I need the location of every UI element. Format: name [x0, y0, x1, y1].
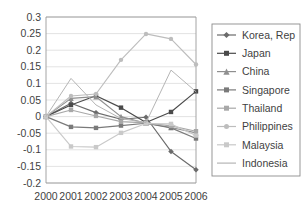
data-point-marker — [69, 94, 73, 98]
x-axis-tick-labels: 2000200120022003200420052006 — [34, 190, 208, 202]
y-tick-label: 0.15 — [21, 60, 42, 72]
data-point-marker — [69, 108, 73, 112]
data-series-group — [43, 32, 198, 173]
data-point-marker — [224, 87, 229, 92]
y-tick-label: -0.1 — [23, 143, 41, 155]
legend-label: China — [242, 65, 270, 77]
data-point-marker — [119, 105, 123, 109]
data-point-marker — [94, 145, 98, 149]
data-point-marker — [169, 122, 173, 126]
x-tick-label: 2000 — [34, 190, 58, 202]
chart-legend: Korea, RepJapanChinaSingaporeThailandPhi… — [212, 24, 300, 176]
legend-label: Indonesia — [242, 157, 288, 169]
legend-label: Thailand — [242, 102, 282, 114]
data-point-marker — [69, 125, 73, 129]
data-point-marker — [69, 144, 73, 148]
data-point-marker — [94, 92, 98, 96]
y-tick-label: 0.1 — [26, 77, 41, 89]
data-point-marker — [119, 123, 123, 127]
y-tick-label: 0.05 — [21, 94, 42, 106]
y-tick-label: 0.3 — [26, 11, 41, 23]
x-tick-label: 2001 — [59, 190, 83, 202]
x-tick-label: 2004 — [134, 190, 158, 202]
x-tick-label: 2003 — [109, 190, 133, 202]
data-point-marker — [94, 126, 98, 130]
legend-label: Philippines — [242, 120, 293, 132]
data-point-marker — [119, 58, 123, 62]
data-point-marker — [169, 37, 173, 41]
x-tick-label: 2005 — [159, 190, 183, 202]
data-point-marker — [194, 129, 198, 133]
data-point-marker — [144, 32, 148, 36]
legend-label: Singapore — [242, 84, 290, 96]
data-point-marker — [224, 106, 229, 111]
y-tick-label: 0.2 — [26, 44, 41, 56]
x-tick-label: 2002 — [84, 190, 108, 202]
data-point-marker — [194, 62, 198, 66]
legend-label: Korea, Rep — [242, 29, 295, 41]
data-point-marker — [69, 103, 73, 107]
line-chart: 0.30.250.20.150.10.050-0.05-0.1-0.15-0.2… — [0, 0, 305, 217]
data-point-marker — [224, 142, 229, 147]
y-tick-label: 0 — [35, 110, 41, 122]
data-point-marker — [169, 110, 173, 114]
x-tick-label: 2006 — [184, 190, 208, 202]
data-point-marker — [94, 114, 98, 118]
data-point-marker — [224, 51, 229, 56]
legend-label: Malaysia — [242, 139, 284, 151]
data-point-marker — [194, 133, 198, 137]
legend-label: Japan — [242, 47, 271, 59]
y-tick-label: 0.25 — [21, 27, 42, 39]
y-tick-label: -0.2 — [23, 177, 41, 189]
data-point-marker — [224, 124, 229, 129]
y-tick-label: -0.15 — [17, 160, 41, 172]
y-tick-label: -0.05 — [17, 127, 41, 139]
data-point-marker — [119, 131, 123, 135]
series-line — [46, 103, 196, 169]
y-axis-tick-labels: 0.30.250.20.150.10.050-0.05-0.1-0.15-0.2 — [17, 11, 41, 189]
chart-canvas: 0.30.250.20.150.10.050-0.05-0.1-0.15-0.2… — [0, 0, 305, 217]
data-point-marker — [119, 119, 123, 123]
